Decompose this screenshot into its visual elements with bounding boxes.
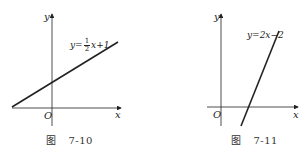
origin-label: O [44, 111, 52, 121]
equation-rhs: x+1 [91, 41, 109, 50]
caption-prefix: 图 [46, 135, 57, 146]
x-axis-label: x [293, 110, 299, 120]
y-axis-label: y [214, 12, 220, 22]
equation-label: y=2x−2 [247, 31, 284, 40]
y-axis-label: y [44, 12, 50, 22]
line-y-2x-minus-2 [241, 31, 279, 126]
figure-caption: 图7-10 [46, 136, 93, 146]
x-axis-label: x [115, 110, 121, 120]
caption-number: 7-10 [69, 135, 93, 146]
figure-7-10-graph [12, 14, 121, 126]
figure-caption: 图7-11 [231, 136, 278, 146]
fraction: 1 2 [84, 38, 90, 53]
equation-label: y= 1 2 x+1 [70, 38, 109, 53]
equation-lhs: y= [70, 41, 83, 50]
origin-label: O [213, 110, 221, 120]
denominator: 2 [85, 46, 89, 53]
caption-number: 7-11 [254, 135, 278, 146]
caption-prefix: 图 [231, 135, 242, 146]
